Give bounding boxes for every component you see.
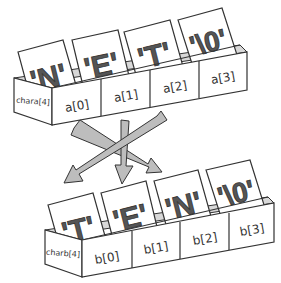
swap-arrows [64,111,167,184]
array-a: 'N' 'E' 'T' '\0' chara[4] a[0] a[1] a[2]… [14,8,247,125]
char-array-diagram: 'N' 'E' 'T' '\0' chara[4] a[0] a[1] a[2]… [0,0,281,283]
